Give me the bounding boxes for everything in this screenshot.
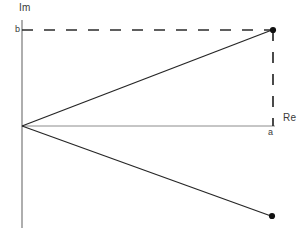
vector-to-z-conjugate <box>22 126 271 216</box>
real-value-tick-label: a <box>268 128 273 137</box>
point-marker-z-conjugate <box>269 213 275 219</box>
argand-diagram-figure: Im Re b a <box>0 0 306 235</box>
imaginary-value-tick-label: b <box>15 25 20 34</box>
real-axis-label: Re <box>283 113 296 123</box>
argand-plot-canvas <box>0 0 306 235</box>
point-marker-z <box>270 27 276 33</box>
vector-to-z <box>22 30 272 126</box>
imaginary-axis-label: Im <box>19 3 31 13</box>
